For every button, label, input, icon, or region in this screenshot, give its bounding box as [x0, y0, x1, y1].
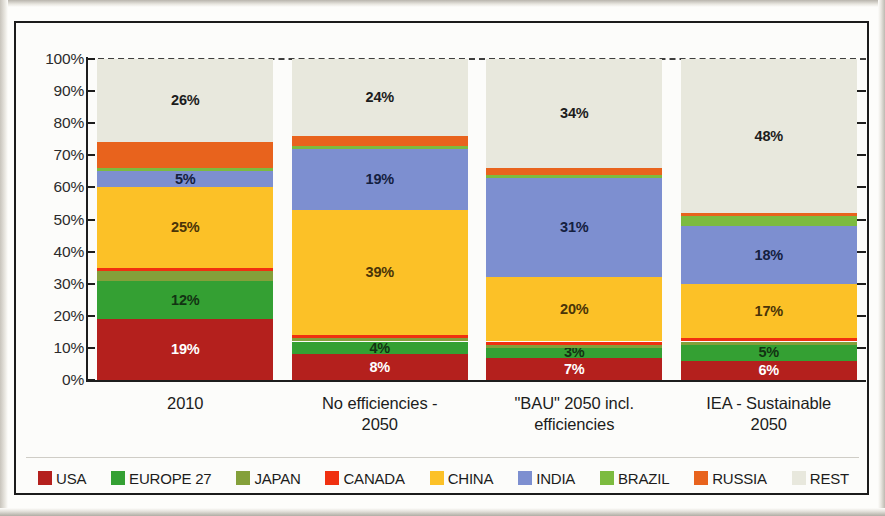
bar-segment-china[interactable]: 20% — [486, 277, 662, 341]
y-tick-label: 80% — [54, 114, 84, 132]
bar-segment-india[interactable]: 31% — [486, 178, 662, 278]
segment-value-label: 7% — [564, 362, 585, 377]
bar-segment-canada[interactable] — [681, 338, 857, 341]
bar-segment-usa[interactable]: 19% — [97, 319, 273, 380]
legend-item-russia[interactable]: RUSSIA — [694, 470, 767, 487]
segment-value-label: 31% — [560, 220, 588, 235]
legend-item-rest[interactable]: REST — [792, 470, 849, 487]
category-label: No efficiencies -2050 — [283, 393, 478, 435]
bar-column[interactable]: 6%5%17%18%48% — [681, 59, 857, 380]
legend-swatch-icon — [325, 471, 339, 485]
bar-segment-japan[interactable] — [681, 342, 857, 345]
segment-value-label: 12% — [171, 293, 199, 308]
segment-value-label: 39% — [366, 265, 394, 280]
segment-value-label: 19% — [366, 172, 394, 187]
category-label-line: IEA - Sustainable — [672, 393, 867, 414]
legend-item-japan[interactable]: JAPAN — [236, 470, 300, 487]
segment-value-label: 17% — [755, 304, 783, 319]
bar-segment-canada[interactable] — [486, 342, 662, 345]
bar-segment-china[interactable]: 39% — [292, 210, 468, 335]
chart-legend: USAEUROPE 27JAPANCANADACHINAINDIABRAZILR… — [30, 464, 857, 492]
y-tick-label: 50% — [54, 211, 84, 229]
bar-segment-usa[interactable]: 6% — [681, 361, 857, 380]
bar-segment-rest[interactable]: 24% — [292, 59, 468, 136]
bar-segment-japan[interactable] — [97, 271, 273, 281]
bar-segment-india[interactable]: 19% — [292, 149, 468, 210]
category-label-line: 2010 — [88, 393, 283, 414]
bar-segment-usa[interactable]: 7% — [486, 358, 662, 380]
bar-segment-india[interactable]: 5% — [97, 171, 273, 187]
bar-segment-russia[interactable] — [486, 168, 662, 174]
bar-column[interactable]: 8%4%39%19%24% — [292, 59, 468, 380]
bar-segment-canada[interactable] — [97, 268, 273, 271]
segment-value-label: 24% — [366, 90, 394, 105]
legend-label: RUSSIA — [712, 470, 767, 487]
segment-value-label: 20% — [560, 302, 588, 317]
bar-segment-russia[interactable] — [97, 142, 273, 168]
legend-item-india[interactable]: INDIA — [518, 470, 575, 487]
x-axis-category-labels: 2010No efficiencies -2050"BAU" 2050 incl… — [88, 387, 866, 453]
bar-columns: 19%12%25%5%26%8%4%39%19%24%7%3%20%31%34%… — [88, 59, 866, 380]
bar-segment-rest[interactable]: 26% — [97, 59, 273, 142]
bar-segment-china[interactable]: 25% — [97, 187, 273, 267]
scan-edge-top — [0, 0, 885, 7]
bar-segment-brazil[interactable] — [97, 168, 273, 171]
legend-item-europe-27[interactable]: EUROPE 27 — [111, 470, 211, 487]
legend-item-usa[interactable]: USA — [38, 470, 86, 487]
bar-column[interactable]: 7%3%20%31%34% — [486, 59, 662, 380]
segment-value-label: 25% — [171, 220, 199, 235]
legend-swatch-icon — [38, 471, 52, 485]
legend-label: INDIA — [536, 470, 575, 487]
legend-swatch-icon — [600, 471, 614, 485]
legend-swatch-icon — [518, 471, 532, 485]
y-tick-label: 100% — [45, 50, 84, 68]
bar-segment-rest[interactable]: 48% — [681, 59, 857, 213]
bar-stack: 7%3%20%31%34% — [486, 59, 662, 380]
legend-item-brazil[interactable]: BRAZIL — [600, 470, 669, 487]
bar-segment-brazil[interactable] — [292, 146, 468, 149]
bar-segment-europe-27[interactable]: 5% — [681, 345, 857, 361]
legend-item-china[interactable]: CHINA — [430, 470, 494, 487]
bar-column[interactable]: 19%12%25%5%26% — [97, 59, 273, 380]
category-label-line: 2050 — [672, 414, 867, 435]
y-tick-label: 30% — [54, 275, 84, 293]
legend-label: JAPAN — [254, 470, 300, 487]
bar-segment-japan[interactable] — [292, 338, 468, 341]
category-label-line: 2050 — [283, 414, 478, 435]
category-label-line: efficiencies — [477, 414, 672, 435]
segment-value-label: 4% — [369, 341, 390, 356]
legend-swatch-icon — [694, 471, 708, 485]
bar-segment-india[interactable]: 18% — [681, 226, 857, 284]
bar-segment-europe-27[interactable]: 4% — [292, 342, 468, 355]
bar-segment-usa[interactable]: 8% — [292, 354, 468, 380]
legend-label: USA — [56, 470, 86, 487]
bar-segment-europe-27[interactable]: 12% — [97, 281, 273, 320]
legend-item-canada[interactable]: CANADA — [325, 470, 404, 487]
legend-swatch-icon — [792, 471, 806, 485]
segment-value-label: 19% — [171, 342, 199, 357]
legend-label: EUROPE 27 — [129, 470, 211, 487]
bar-segment-europe-27[interactable]: 3% — [486, 348, 662, 358]
bar-segment-china[interactable]: 17% — [681, 284, 857, 339]
bar-segment-canada[interactable] — [292, 335, 468, 338]
legend-swatch-icon — [111, 471, 125, 485]
bar-segment-rest[interactable]: 34% — [486, 59, 662, 168]
bar-segment-brazil[interactable] — [681, 216, 857, 226]
bar-stack: 19%12%25%5%26% — [97, 59, 273, 380]
category-label: "BAU" 2050 incl.efficiencies — [477, 393, 672, 435]
legend-label: REST — [810, 470, 849, 487]
bar-segment-russia[interactable] — [681, 213, 857, 216]
y-tick-label: 40% — [54, 243, 84, 261]
segment-value-label: 48% — [755, 129, 783, 144]
x-axis-baseline — [86, 380, 866, 382]
bar-segment-japan[interactable] — [486, 345, 662, 348]
chart-frame: 100%90%80%70%60%50%40%30%20%10%0% 19%12%… — [14, 21, 869, 495]
segment-value-label: 26% — [171, 93, 199, 108]
category-label: IEA - Sustainable2050 — [672, 393, 867, 435]
category-label-line: "BAU" 2050 incl. — [477, 393, 672, 414]
category-label-line: No efficiencies - — [283, 393, 478, 414]
y-axis-tick-labels: 100%90%80%70%60%50%40%30%20%10%0% — [24, 59, 84, 380]
bar-segment-russia[interactable] — [292, 136, 468, 146]
legend-swatch-icon — [236, 471, 250, 485]
bar-segment-brazil[interactable] — [486, 175, 662, 178]
